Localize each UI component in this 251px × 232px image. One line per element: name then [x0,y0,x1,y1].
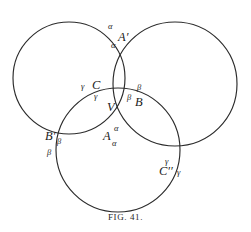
point-label-B-prime: B′ [45,130,55,143]
angle-label-beta-Bprime-below: β [47,148,51,157]
angle-label-beta-Bprime-right: β [57,137,61,146]
angle-label-gamma-Cprime-right: γ [177,168,180,177]
angle-label-beta-B-outer: β [137,83,141,92]
angle-label-alpha-A-upper: α [114,124,118,133]
bottom-circle [56,88,180,212]
point-label-B: B [135,96,143,109]
figure-container: A′ C B V A B′ C′′ α α γ γ β β α α β β γ … [0,0,251,232]
angle-label-beta-B-inner: β [127,93,131,102]
angle-label-alpha-upper-inner: α [111,41,115,50]
vertex-label-V: V [107,101,115,114]
angle-label-alpha-A-lower: α [112,139,116,148]
angle-label-gamma-C-left: γ [81,82,84,91]
figure-caption: FIG. 41. [0,212,251,222]
angle-label-gamma-Cprime-top: γ [165,157,168,166]
point-label-A-prime: A′ [118,31,128,44]
point-label-C-prime: C′′ [159,165,173,178]
angle-label-alpha-upper-outer: α [108,22,112,31]
left-circle [13,22,125,134]
point-label-C: C [92,79,100,92]
angle-label-gamma-C-inner: γ [94,92,97,101]
point-label-A: A [103,130,111,143]
right-circle [113,22,237,146]
